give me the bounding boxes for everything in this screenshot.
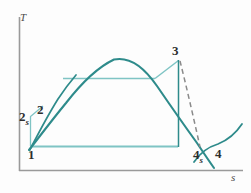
state-label-4s: 4s — [193, 148, 203, 165]
state-label-1-text: 1 — [28, 147, 35, 162]
ts-diagram-canvas — [0, 0, 251, 193]
x-axis-label: s — [231, 172, 235, 183]
state-label-2s: 2s — [19, 110, 29, 127]
state-label-4s-subscript: s — [200, 155, 204, 165]
state-label-4: 4 — [215, 147, 222, 160]
superheat-line — [155, 61, 179, 79]
state-label-2-text: 2 — [37, 102, 44, 117]
saturation-dome-curve — [29, 59, 214, 168]
state-label-3: 3 — [172, 44, 179, 57]
state-label-2s-subscript: s — [26, 117, 30, 127]
state-label-1: 1 — [28, 148, 35, 161]
state-label-2: 2 — [37, 103, 44, 116]
state-label-4-text: 4 — [215, 146, 222, 161]
state-label-3-text: 3 — [172, 43, 179, 58]
y-axis-label: T — [20, 12, 26, 23]
ts-diagram-figure: T s 1 2s 2 3 4s 4 — [0, 0, 251, 193]
